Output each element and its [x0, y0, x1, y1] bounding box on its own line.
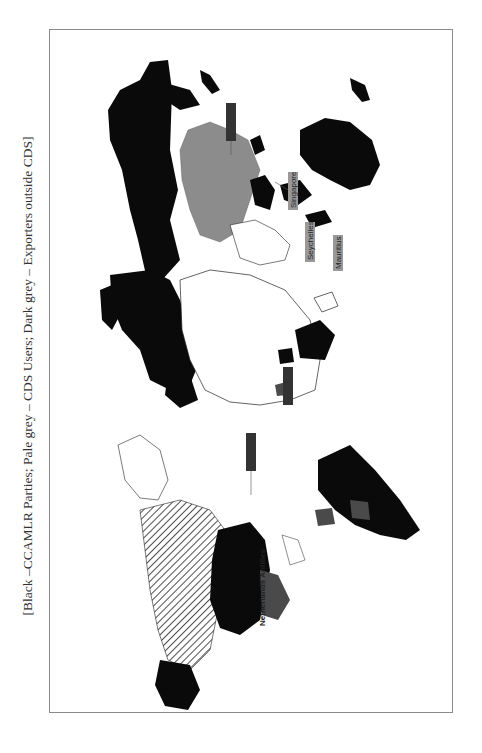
label-singapore-text: Singapore	[289, 171, 298, 208]
region-south-america	[318, 445, 420, 540]
label-mauritius: Mauritius	[333, 235, 343, 271]
region-brazil-dark	[350, 500, 370, 520]
label-netherlands-antilles-text: Netherlands Antilles	[258, 548, 267, 626]
region-south-asia	[230, 220, 290, 265]
world-map-frame: Singapore Seychelles Mauritius Netherlan…	[49, 29, 453, 713]
region-new-zealand	[350, 78, 370, 102]
region-japan	[200, 70, 220, 94]
region-namibia	[278, 348, 294, 364]
region-se-asia	[250, 175, 275, 210]
label-dark-box-africa	[283, 367, 293, 405]
label-mauritius-text: Mauritius	[334, 237, 343, 269]
map-caption: [Black –CCAMLR Parties; Pale grey – CDS …	[20, 137, 36, 616]
label-netherlands-antilles: Netherlands Antilles	[258, 548, 267, 626]
region-central-america	[282, 535, 305, 565]
label-dark-box-atlantic	[246, 433, 256, 495]
region-greenland	[118, 435, 168, 500]
region-australia	[300, 118, 380, 190]
label-seychelles: Seychelles	[305, 221, 315, 262]
region-colombia-dark	[315, 508, 335, 526]
label-seychelles-text: Seychelles	[306, 221, 315, 260]
world-map: Singapore Seychelles Mauritius Netherlan…	[50, 30, 454, 714]
region-alaska	[155, 660, 200, 710]
region-madagascar	[314, 292, 338, 312]
